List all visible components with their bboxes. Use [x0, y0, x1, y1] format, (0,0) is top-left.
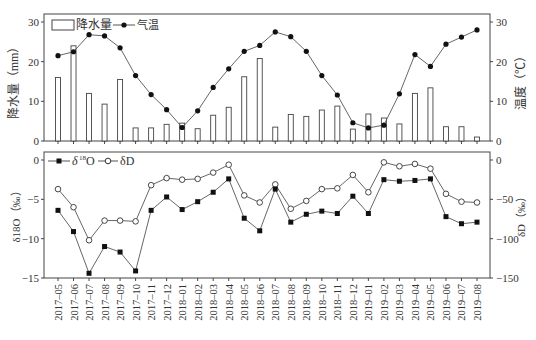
precip-bar — [257, 58, 262, 141]
delta18O-marker — [180, 207, 185, 212]
y-tick-label: −150 — [496, 272, 519, 284]
delta18O-marker — [211, 190, 216, 195]
x-axis: 2017–052017–062017–072017–082017–092017–… — [53, 141, 483, 321]
temperature-marker — [55, 53, 60, 58]
delta18O-marker — [319, 209, 324, 214]
deltaD-marker — [164, 175, 170, 181]
delta18O-marker — [397, 179, 402, 184]
x-tick-label: 2017–10 — [131, 284, 142, 321]
deltaD-marker — [71, 204, 77, 210]
delta18O-marker — [273, 187, 278, 192]
deltaD-marker — [428, 166, 434, 172]
deltaD-marker — [397, 163, 403, 169]
temperature-marker — [474, 27, 479, 32]
temperature-marker — [443, 42, 448, 47]
precip-bar — [443, 127, 448, 141]
y-tick-label: −5 — [27, 193, 39, 205]
legend-deltaD-label: δD — [120, 154, 135, 168]
precip-bar — [149, 128, 154, 141]
x-tick-label: 2019–04 — [410, 283, 421, 321]
deltaD-marker — [335, 186, 341, 192]
x-tick-label: 2019–06 — [441, 284, 452, 321]
x-tick-label: 2019–07 — [456, 284, 467, 321]
temperature-marker — [226, 66, 231, 71]
y-tick-label: 30 — [28, 16, 40, 28]
delta18O-marker — [149, 208, 154, 213]
precip-bar — [118, 80, 123, 141]
x-tick-label: 2018–09 — [301, 284, 312, 321]
x-tick-label: 2017–08 — [100, 284, 111, 321]
temperature-marker — [366, 125, 371, 130]
y-axis-title-left: δ18O（‰） — [10, 185, 22, 242]
deltaD-marker — [241, 193, 247, 199]
delta18O-marker — [459, 221, 464, 226]
delta18O-marker — [257, 228, 262, 233]
x-tick-label: 2019–05 — [425, 284, 436, 321]
chart: 01020300102030降水量气温降水量（mm）温度（℃） −15−10−5… — [0, 0, 536, 340]
deltaD-marker — [133, 219, 139, 225]
temperature-marker — [428, 64, 433, 69]
precip-bar — [350, 129, 355, 141]
deltaD-marker — [443, 191, 449, 197]
deltaD-marker — [102, 218, 108, 224]
x-tick-label: 2018–01 — [177, 284, 188, 321]
deltaD-marker — [366, 189, 372, 195]
precip-bar — [459, 127, 464, 141]
delta18O-marker — [87, 271, 92, 276]
deltaD-marker — [412, 161, 418, 167]
y-tick-label: 10 — [28, 95, 40, 107]
delta18O-marker — [102, 244, 107, 249]
deltaD-marker — [303, 198, 309, 204]
precip-bar — [397, 124, 402, 141]
x-tick-label: 2019–08 — [472, 284, 483, 321]
temperature-marker — [71, 49, 76, 54]
deltaD-marker — [459, 199, 465, 205]
y-tick-label: 20 — [496, 56, 508, 68]
y-tick-label: 10 — [496, 95, 508, 107]
temperature-marker — [164, 107, 169, 112]
delta18O-marker — [335, 211, 340, 216]
precip-bar — [475, 137, 480, 141]
deltaD-marker — [55, 186, 61, 192]
delta18O-marker — [428, 176, 433, 181]
deltaD-marker — [179, 177, 185, 183]
deltaD-marker — [226, 162, 232, 168]
deltaD-marker — [195, 176, 201, 182]
y-tick-label: −50 — [496, 193, 514, 205]
deltaD-marker — [474, 200, 480, 206]
y-axis-title-right: δD（‰） — [515, 191, 527, 237]
delta18O-marker — [133, 268, 138, 273]
x-tick-label: 2019–01 — [363, 284, 374, 321]
temperature-marker — [273, 29, 278, 34]
delta18O-marker — [71, 229, 76, 234]
x-tick-label: 2018–03 — [208, 284, 219, 321]
temperature-marker — [412, 52, 417, 57]
legend-delta18O-marker — [57, 159, 62, 164]
y-tick-label: 0 — [34, 135, 40, 147]
legend-precip-label: 降水量 — [76, 18, 112, 32]
legend-temp-marker — [121, 22, 126, 27]
x-tick-label: 2019–02 — [379, 284, 390, 321]
plot-frame — [44, 152, 490, 278]
temperature-marker — [195, 108, 200, 113]
delta18O-marker — [195, 199, 200, 204]
delta18O-marker — [288, 220, 293, 225]
legend-bar-swatch — [52, 20, 74, 30]
deltaD-marker — [350, 172, 356, 178]
delta18O-marker — [350, 194, 355, 199]
bottom-panel: −15−10−50−150−100−500δ18OδDδ18O（‰）δD（‰） — [10, 152, 527, 284]
x-tick-label: 2017–06 — [69, 284, 80, 321]
precip-bar — [87, 93, 92, 141]
temperature-marker — [257, 43, 262, 48]
delta18O-marker — [304, 212, 309, 217]
y-tick-label: −10 — [22, 233, 40, 245]
deltaD-marker — [319, 186, 325, 192]
deltaD-marker — [272, 182, 278, 188]
x-tick-label: 2018–02 — [193, 284, 204, 321]
precip-bar — [319, 110, 324, 141]
delta18O-marker — [226, 176, 231, 181]
temperature-marker — [180, 125, 185, 130]
y-tick-label: 20 — [28, 56, 40, 68]
y-tick-label: 0 — [34, 154, 40, 166]
x-tick-label: 2017–11 — [146, 284, 157, 320]
